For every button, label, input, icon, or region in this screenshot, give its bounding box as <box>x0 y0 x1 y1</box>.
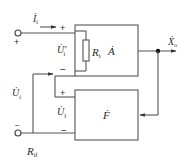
a-plus-sign: + <box>60 23 65 33</box>
input-terminal-minus <box>15 130 21 136</box>
input-resistance-label: Rif <box>26 145 37 158</box>
feedback-voltage-label: U̇f <box>57 106 66 119</box>
input-voltage-label: U̇i <box>12 87 21 100</box>
f-plus-sign: + <box>60 88 65 98</box>
a-minus-sign: − <box>60 64 66 75</box>
gain-a-label: Ȧ <box>107 45 115 57</box>
output-label: Ẋo <box>167 36 177 48</box>
feedback-amplifier-diagram: Ri Ȧ Ḟ + İi + U̇′i − + U̇i U̇f − − Rif Ẋ… <box>0 0 194 166</box>
terminal-minus-sign: − <box>15 121 20 130</box>
terminal-plus-sign: + <box>14 37 19 47</box>
input-current-label: İi <box>32 13 38 25</box>
input-terminal-plus <box>15 30 21 36</box>
net-input-voltage-label: U̇′i <box>57 44 67 57</box>
f-minus-sign: − <box>61 125 67 136</box>
feedback-f-label: Ḟ <box>102 109 110 121</box>
